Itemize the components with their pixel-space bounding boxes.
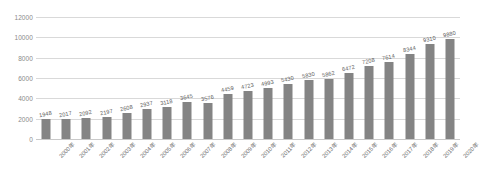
bar-value-label: 2608 [119, 103, 133, 112]
x-axis-tick-label: 2000年 [57, 140, 77, 160]
bar-slot: 2608 [117, 17, 137, 139]
bar-slot: 7614 [379, 17, 399, 139]
bar-value-label: 7208 [362, 57, 376, 66]
y-axis-tick-label: 10000 [14, 34, 33, 41]
bar-value-label: 2197 [99, 107, 113, 116]
bar-slot: 6472 [339, 17, 359, 139]
x-axis: 2000年2001年2002年2003年2004年2005年2006年2007年… [36, 140, 460, 185]
bar-value-label: 4993 [261, 79, 275, 88]
bar[interactable] [163, 107, 172, 139]
bar[interactable] [62, 119, 71, 140]
bar-value-label: 9310 [422, 35, 436, 44]
x-axis-tick-label: 2006年 [178, 140, 198, 160]
bar-slot: 9880 [440, 17, 460, 139]
bar[interactable] [264, 88, 273, 139]
x-axis-tick-label: 2007年 [198, 140, 218, 160]
bar[interactable] [324, 79, 333, 139]
x-axis-tick-label: 2018年 [420, 140, 440, 160]
bar[interactable] [284, 84, 293, 139]
bar-slot: 3118 [157, 17, 177, 139]
x-axis-tick-label: 2002年 [97, 140, 117, 160]
x-axis-tick-label: 2004年 [137, 140, 157, 160]
bar-slot: 2937 [137, 17, 157, 139]
bar-value-label: 3118 [160, 98, 173, 106]
bar[interactable] [203, 103, 212, 139]
bar-value-label: 3645 [180, 93, 194, 102]
bar-value-label: 9880 [442, 29, 456, 38]
x-axis-tick-label: 2020年 [460, 140, 480, 160]
bar-value-label: 3576 [200, 93, 214, 102]
x-axis-tick-label: 2012年 [299, 140, 319, 160]
x-axis-tick-label: 2011年 [279, 140, 298, 159]
bar-value-label: 5430 [281, 75, 295, 84]
bar-value-label: 4723 [240, 82, 254, 91]
bar-value-label: 7614 [382, 52, 396, 61]
bar[interactable] [405, 54, 414, 139]
bar[interactable] [122, 113, 131, 140]
bar-slot: 7208 [359, 17, 379, 139]
bar-slot: 8344 [399, 17, 419, 139]
bar[interactable] [243, 91, 252, 139]
bar[interactable] [42, 119, 51, 139]
bar[interactable] [344, 73, 353, 139]
y-axis-tick-label: 2000 [18, 115, 33, 122]
x-axis-tick-label: 2015年 [359, 140, 379, 160]
bar-slot: 1948 [36, 17, 56, 139]
bar-slot: 2197 [97, 17, 117, 139]
y-axis-tick-label: 12000 [14, 14, 33, 21]
bar-value-label: 8344 [402, 45, 416, 54]
bar-value-label: 1948 [39, 110, 53, 119]
y-axis-tick-label: 6000 [18, 75, 33, 82]
x-axis-tick-label: 2010年 [259, 140, 279, 160]
plot-area: 1948201720922197260829373118364535764459… [36, 17, 460, 139]
x-axis-tick-label: 2016年 [380, 140, 400, 160]
bar[interactable] [425, 44, 434, 139]
bar-value-label: 5862 [321, 70, 335, 79]
x-axis-tick-label: 2005年 [158, 140, 178, 160]
bar-value-label: 2937 [139, 100, 153, 109]
bar-slot: 3645 [177, 17, 197, 139]
bar-slot: 3576 [198, 17, 218, 139]
bar-slot: 5430 [278, 17, 298, 139]
bar-value-label: 2017 [59, 109, 73, 118]
y-axis-tick-label: 0 [29, 136, 33, 143]
bar-slot: 5830 [298, 17, 318, 139]
bar[interactable] [445, 39, 454, 139]
bar-slot: 4993 [258, 17, 278, 139]
x-axis-tick-label: 2008年 [218, 140, 238, 160]
x-axis-tick-label: 2014年 [339, 140, 359, 160]
bars-layer: 1948201720922197260829373118364535764459… [36, 17, 460, 139]
y-axis-tick-label: 4000 [18, 95, 33, 102]
bar-value-label: 5830 [301, 71, 315, 80]
x-axis-tick-label: 2003年 [117, 140, 137, 160]
x-axis-tick-label: 2019年 [440, 140, 460, 160]
bar-value-label: 4459 [220, 84, 234, 93]
x-axis-tick-label: 2017年 [400, 140, 420, 160]
bar[interactable] [385, 62, 394, 139]
y-axis-tick-label: 8000 [18, 54, 33, 61]
bar[interactable] [365, 66, 374, 139]
bar-slot: 2017 [56, 17, 76, 139]
bar[interactable] [143, 109, 152, 139]
bar-slot: 4459 [218, 17, 238, 139]
x-axis-tick-label: 2013年 [319, 140, 339, 160]
bar[interactable] [223, 94, 232, 139]
bar-slot: 5862 [319, 17, 339, 139]
y-axis: 020004000600080001000012000 [0, 17, 33, 139]
bar-slot: 9310 [420, 17, 440, 139]
bar[interactable] [102, 117, 111, 139]
bar[interactable] [183, 102, 192, 139]
x-axis-tick-label: 2001年 [77, 140, 97, 160]
bar[interactable] [304, 80, 313, 139]
bar-value-label: 6472 [341, 64, 355, 73]
bar[interactable] [82, 118, 91, 139]
bar-slot: 4723 [238, 17, 258, 139]
bar-value-label: 2092 [79, 109, 93, 118]
bar-slot: 2092 [76, 17, 96, 139]
x-axis-tick-label: 2009年 [238, 140, 258, 160]
